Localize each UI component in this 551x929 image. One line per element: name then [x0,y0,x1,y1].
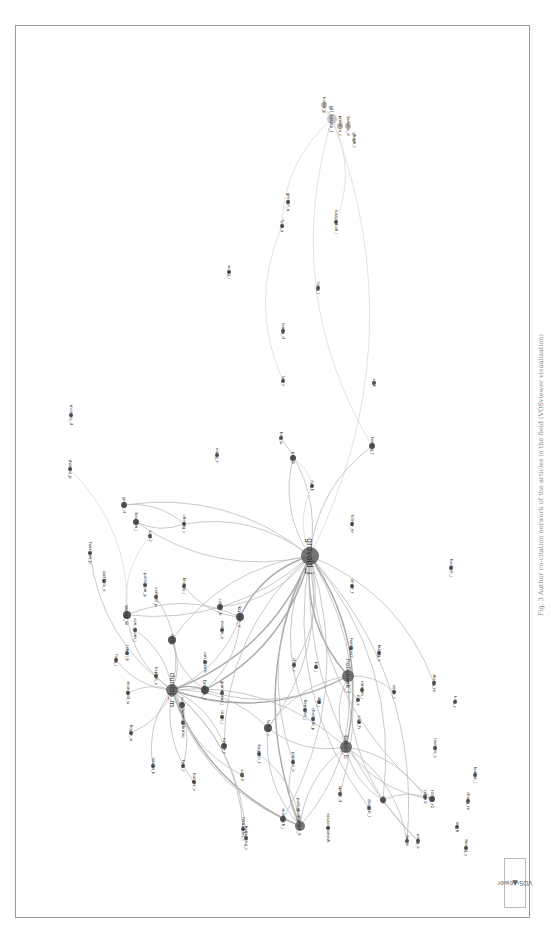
network-node[interactable]: kumar_j [473,767,478,783]
network-node[interactable]: harrigan2 [349,638,354,658]
network-node[interactable]: dessart_l [367,799,372,817]
network-node[interactable]: rather_r2 [429,790,435,809]
network-node[interactable]: lemon_k [151,758,156,775]
network-node[interactable]: kim_y [453,696,458,708]
network-node[interactable]: fang_j [114,654,119,666]
network-node[interactable]: mangold_w [126,682,131,706]
network-node[interactable]: so_k2 [148,530,153,542]
network-node[interactable]: chathoth_p [311,708,316,731]
network-node[interactable]: loureiro_s [433,738,438,757]
network-node[interactable]: prentice_c [337,116,343,137]
network-node[interactable]: islam_j [220,710,225,724]
network-node[interactable]: zhang_m [432,674,437,692]
network-node[interactable]: patterson_p [143,573,148,597]
network-node[interactable]: gummerus_j [220,681,225,706]
network-node[interactable]: bowden_j [133,513,139,532]
network-node[interactable]: fornell_c [264,720,272,737]
network-node[interactable]: chen_c [292,658,297,672]
network-node[interactable]: van_doorn [203,652,208,673]
network-node[interactable]: xiang_z [215,447,220,462]
network-node[interactable]: so_k [372,379,377,389]
network-node[interactable]: taheri_b [125,645,130,662]
network-node[interactable]: ghosh_t [352,132,357,148]
network-node[interactable]: hennig_t [369,437,375,455]
network-edge [124,502,310,556]
network-node[interactable]: hoyer_w [129,725,134,742]
network-node[interactable]: ryu_k [310,481,315,493]
network-node[interactable]: dunlop_m [166,673,178,707]
network-node[interactable]: so_k_h [357,715,362,729]
network-node[interactable]: henseler_j [303,700,308,720]
network-node[interactable]: wong_a [416,833,421,849]
network-node[interactable]: fernandes_t [241,817,246,841]
network-node[interactable]: brakus_j [182,578,187,595]
node-label: dunlop_m [168,673,176,707]
network-node[interactable]: liang_l [316,282,321,295]
network-node[interactable]: pansari_a [291,752,296,772]
network-node[interactable]: bagozzi_r [257,745,262,764]
network-node[interactable]: li_m [380,796,386,804]
network-node[interactable]: heskett_j [449,559,454,577]
network-edge [136,522,184,528]
network-node[interactable]: hu_m [405,836,410,847]
network-node[interactable]: romero_j [360,681,365,698]
network-node[interactable]: kotler_p [321,97,327,113]
network-node[interactable]: podsakoff_p [296,798,301,822]
network-node[interactable]: ahn_j [317,697,322,708]
network-node[interactable]: hollebeek_l [342,659,354,693]
network-nodes: grovold_jdunlop_mhollebeek_lbabin_bvargo… [68,97,478,857]
network-node[interactable]: babin_b [340,735,352,759]
network-node[interactable]: jaakkola_e [102,570,107,593]
node-label: ghosh_t [352,132,357,148]
network-node[interactable]: cheng_m [466,792,471,810]
network-node[interactable]: law_r [281,376,286,387]
network-node[interactable]: wong_i [227,265,232,279]
node-label: podsakoff_p [296,798,301,822]
node-label: heskett_j [449,559,454,577]
network-node[interactable]: marbach_j [280,809,286,830]
node-label: gretzel_u [286,193,291,212]
network-node[interactable]: buhalis_d [345,117,351,136]
network-node[interactable]: mcevoy_d [69,405,74,426]
network-node[interactable]: sprott_d [338,786,343,803]
network-node[interactable]: kaplan_a [154,667,159,685]
network-node[interactable]: grace_d [121,497,127,513]
network-node[interactable]: sashi_c [392,685,397,699]
network-edge [128,687,172,693]
network-node[interactable]: rather_r [221,738,227,754]
network-node[interactable]: gil_saura_i [327,106,337,132]
network-node[interactable]: van_doorn_j [133,618,138,642]
network-node[interactable]: leung_d [281,323,286,339]
network-node[interactable]: tussyadiah_i [334,210,339,235]
network-node[interactable]: harrigan_p [88,542,93,564]
network-node[interactable]: kim_j [314,662,319,672]
network-node[interactable]: hsu_c [181,760,186,771]
network-node[interactable]: hair_j [168,635,176,646]
network-node[interactable]: mollen_a [220,621,225,640]
network-node[interactable]: fyall_a [280,220,285,233]
network-node[interactable]: taheri2 [423,790,428,805]
node-label: van_doorn_j [133,618,138,642]
network-edge [310,446,372,556]
network-node[interactable]: bitner_m [350,515,355,533]
node-label: chathoth_p [311,708,316,731]
network-node[interactable]: huang_y [464,840,469,858]
node-label: law_r [281,376,286,387]
network-node[interactable]: lee_h [455,822,460,833]
network-node[interactable]: huang_s [377,645,382,662]
network-node[interactable]: gretzel_u [286,193,291,212]
network-node[interactable]: oliver_r [350,579,355,594]
network-node[interactable]: verhoef_p [154,587,159,607]
network-node[interactable]: wang_w [123,605,131,625]
network-node[interactable]: rasoolimanesh [326,813,331,843]
node-label: calder_b [218,599,223,616]
network-node[interactable]: pan_b [290,452,296,465]
network-node[interactable]: hennig_thurau [181,709,186,738]
node-label: rasoolimanesh [326,813,331,843]
network-node[interactable]: barger_v [192,773,197,791]
network-node[interactable]: calder_b [217,599,223,616]
network-node[interactable]: kim_w [279,432,284,445]
network-node[interactable]: cheung_c [182,514,187,533]
network-node[interactable]: sharma_p [68,459,73,479]
network-node[interactable]: so_k3 [240,769,245,781]
